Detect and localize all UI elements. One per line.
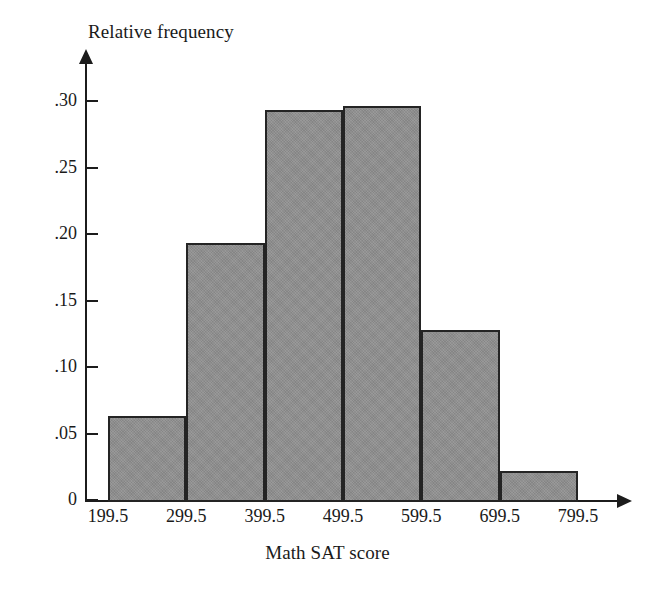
y-axis-tick [85, 499, 98, 501]
y-axis-line [85, 58, 87, 502]
y-axis-tick [85, 100, 98, 102]
x-axis-tick-label: 699.5 [455, 506, 545, 527]
x-axis-tick-label: 399.5 [220, 506, 310, 527]
y-axis-tick [85, 167, 98, 169]
x-axis-tick-label: 299.5 [141, 506, 231, 527]
y-axis-title: Relative frequency [88, 21, 234, 43]
histogram-bar [343, 106, 421, 502]
y-axis-tick [85, 433, 98, 435]
histogram-bar [265, 110, 343, 502]
x-axis-tick-label: 799.5 [533, 506, 623, 527]
y-axis-tick-label: .30 [31, 90, 77, 111]
y-axis-tick [85, 300, 98, 302]
histogram-bar [108, 416, 186, 502]
x-axis-tick-label: 599.5 [376, 506, 466, 527]
x-axis-tick-label: 499.5 [298, 506, 388, 527]
x-axis-title: Math SAT score [0, 542, 655, 564]
y-axis-tick-label: .10 [31, 356, 77, 377]
x-axis-tick-label: 199.5 [63, 506, 153, 527]
histogram-bar [186, 243, 264, 502]
y-axis-arrow-icon [79, 49, 93, 64]
histogram-chart: Relative frequency .30.25.20.15.10.050 1… [0, 0, 655, 589]
y-axis-tick-label: .25 [31, 157, 77, 178]
y-axis-tick-label: .15 [31, 290, 77, 311]
y-axis-tick [85, 233, 98, 235]
y-axis-tick-label: .05 [31, 423, 77, 444]
y-axis-tick-label: .20 [31, 223, 77, 244]
y-axis-tick [85, 366, 98, 368]
histogram-bar [500, 471, 578, 502]
histogram-bar [421, 330, 499, 502]
